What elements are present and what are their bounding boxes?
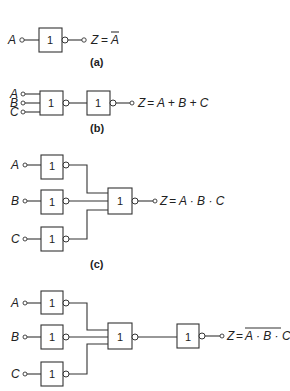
circuit-d: A 1 B 1 C 1 1 1 Z = A · B · C (10, 291, 290, 386)
circuit-c: A 1 B 1 C 1 1 Z = A · B · C (c) (10, 155, 225, 270)
input-c-label: C (11, 367, 20, 381)
gate-label: 1 (185, 331, 191, 343)
output-expression: A (110, 33, 119, 47)
input-terminal-icon (23, 301, 27, 305)
input-terminal-icon (23, 237, 27, 241)
input-a-label: A (7, 33, 16, 47)
input-terminal-icon (21, 110, 25, 114)
gate-label: 1 (49, 160, 55, 172)
output-expression: = A · B · C (169, 194, 225, 208)
output-terminal-icon (130, 101, 134, 105)
inversion-bubble-icon (110, 100, 116, 106)
input-c-label: C (11, 232, 20, 246)
input-terminal-icon (21, 92, 25, 96)
inversion-bubble-icon (62, 37, 68, 43)
input-a-label: A (10, 296, 19, 310)
input-terminal-icon (20, 38, 24, 42)
caption-b: (b) (90, 122, 104, 134)
gate-label: 1 (49, 233, 55, 245)
gate-label: 1 (47, 34, 53, 46)
inversion-bubble-icon (199, 333, 205, 339)
input-terminal-icon (23, 335, 27, 339)
gate-label: 1 (49, 196, 55, 208)
inversion-bubble-icon (63, 300, 69, 306)
equals-sign: = (101, 33, 108, 47)
gate-label: 1 (48, 97, 54, 109)
gate-label: 1 (49, 331, 55, 343)
logic-gate-diagram: A 1 Z = A (a) A B C 1 1 Z = A + B + C (0, 0, 290, 391)
input-terminal-icon (23, 199, 27, 203)
output-z-label: Z (159, 194, 168, 208)
gate-label: 1 (49, 297, 55, 309)
circuit-b: A B C 1 1 Z = A + B + C (b) (9, 87, 209, 134)
inversion-bubble-icon (63, 198, 69, 204)
gate-label: 1 (49, 368, 55, 380)
output-terminal-icon (153, 199, 157, 203)
inversion-bubble-icon (132, 334, 138, 340)
inversion-bubble-icon (132, 198, 138, 204)
output-expression: = A + B + C (147, 96, 209, 110)
gate-label: 1 (95, 97, 101, 109)
input-b-label: B (11, 330, 19, 344)
caption-c: (c) (90, 258, 104, 270)
inversion-bubble-icon (63, 371, 69, 377)
output-terminal-icon (220, 334, 224, 338)
input-terminal-icon (21, 101, 25, 105)
output-z-label: Z (90, 33, 99, 47)
caption-a: (a) (90, 56, 104, 68)
input-b-label: B (11, 194, 19, 208)
inversion-bubble-icon (63, 334, 69, 340)
gate-label: 1 (117, 195, 123, 207)
equals-sign: = (236, 329, 243, 343)
gate-label: 1 (117, 331, 123, 343)
output-expression: A · B · C (244, 329, 290, 343)
output-z-label: Z (137, 96, 146, 110)
output-terminal-icon (82, 38, 86, 42)
input-terminal-icon (23, 163, 27, 167)
inversion-bubble-icon (63, 162, 69, 168)
output-z-label: Z (226, 329, 235, 343)
inversion-bubble-icon (63, 236, 69, 242)
input-c-label: C (10, 105, 19, 119)
inversion-bubble-icon (63, 100, 69, 106)
input-a-label: A (10, 158, 19, 172)
input-terminal-icon (23, 372, 27, 376)
circuit-a: A 1 Z = A (a) (7, 28, 119, 68)
